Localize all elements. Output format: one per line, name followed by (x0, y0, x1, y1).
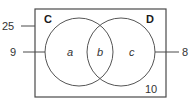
set-d-count-label: 8 (182, 46, 188, 58)
outside-count-label: 10 (145, 83, 157, 95)
total-label: 25 (2, 20, 14, 32)
set-d-name: D (146, 13, 154, 25)
set-c-name: C (44, 13, 52, 25)
region-d-only-label: c (129, 46, 135, 58)
region-c-only-label: a (67, 46, 73, 58)
region-intersection-label: b (97, 46, 103, 58)
set-c-count-label: 9 (10, 46, 16, 58)
venn-diagram: 25 9 8 C D a b c 10 (0, 0, 195, 101)
